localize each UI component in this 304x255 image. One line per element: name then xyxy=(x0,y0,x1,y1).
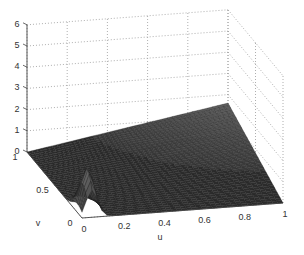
v-tick-label: 0 xyxy=(67,218,72,228)
z-tick-label: 2 xyxy=(14,104,19,114)
u-tick-label: 0.8 xyxy=(239,212,252,222)
v-tick-label: 1 xyxy=(12,152,17,162)
v-tick-label: 0.5 xyxy=(36,185,49,195)
z-tick-label: 3 xyxy=(14,82,19,92)
z-tick-label: 1 xyxy=(14,125,19,135)
u-tick-label: 0.2 xyxy=(118,221,131,231)
surface-plot: 0123456 00.20.40.60.81 00.51 u v xyxy=(0,0,304,255)
v-axis-label: v xyxy=(36,218,41,228)
u-tick-label: 0.6 xyxy=(198,215,211,225)
z-tick-label: 5 xyxy=(14,40,19,50)
z-axis-ticks: 0123456 xyxy=(14,19,27,156)
u-tick-label: 0.4 xyxy=(158,218,171,228)
z-tick-label: 6 xyxy=(14,19,19,29)
u-tick-label: 0 xyxy=(81,224,86,234)
u-tick-label: 1 xyxy=(282,209,287,219)
u-axis-label: u xyxy=(157,232,162,242)
surface-mesh xyxy=(27,103,283,216)
z-tick-label: 4 xyxy=(14,61,19,71)
